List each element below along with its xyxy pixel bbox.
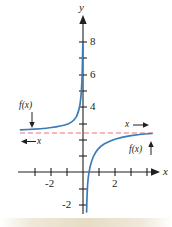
x-axis-arrowhead <box>151 168 160 175</box>
y-axis-arrowhead <box>79 15 86 24</box>
left-fx-label: f(x) <box>19 101 32 111</box>
right-x-label: x <box>125 120 129 130</box>
function-graph-figure: y x 8 6 4 -2 -2 2 f(x) x x f(x) <box>0 0 172 227</box>
curve-right-branch <box>87 134 152 213</box>
curve-left-branch <box>21 44 83 130</box>
y-tick-label-6: 6 <box>90 69 96 80</box>
y-axis-name-label: y <box>79 2 84 13</box>
left-x-label: x <box>37 137 41 147</box>
right-fx-label: f(x) <box>129 145 142 155</box>
x-tick-label-2: 2 <box>112 178 118 189</box>
page-bottom-band <box>0 218 172 227</box>
y-tick-label-minus-2: -2 <box>62 199 71 210</box>
graph-canvas <box>0 0 172 227</box>
x-tick-label-minus-2: -2 <box>45 178 54 189</box>
y-tick-label-8: 8 <box>90 36 96 47</box>
y-tick-label-4: 4 <box>90 101 96 112</box>
x-axis-name-label: x <box>163 166 168 177</box>
left-fx-down-arrow-icon <box>29 112 34 128</box>
left-x-left-arrow-icon <box>21 139 36 144</box>
right-fx-up-arrow-icon <box>148 141 153 155</box>
right-x-right-arrow-icon <box>133 122 149 127</box>
